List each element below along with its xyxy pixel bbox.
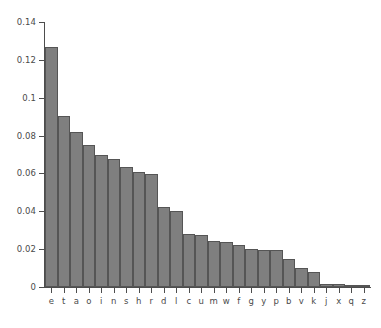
bar-n xyxy=(108,159,121,287)
x-tick-label-h: h xyxy=(136,296,141,306)
x-tick-mark xyxy=(276,288,277,293)
x-tick-mark xyxy=(364,288,365,293)
x-tick-label-x: x xyxy=(336,296,341,306)
x-tick-mark xyxy=(51,288,52,293)
bar-t xyxy=(58,116,71,287)
letter-frequency-bar-chart: 00.020.040.060.080.10.120.14 etaoinshrdl… xyxy=(0,0,381,328)
x-tick-mark xyxy=(114,288,115,293)
x-tick-mark xyxy=(164,288,165,293)
bar-h xyxy=(133,172,146,287)
y-tick-label: 0.06 xyxy=(17,168,36,178)
x-tick-mark xyxy=(351,288,352,293)
bar-i xyxy=(95,155,108,287)
x-tick-label-e: e xyxy=(49,296,54,306)
bar-q xyxy=(345,285,358,287)
x-tick-label-c: c xyxy=(186,296,191,306)
x-tick-mark xyxy=(126,288,127,293)
bar-e xyxy=(45,47,58,287)
bar-f xyxy=(233,245,246,287)
bar-k xyxy=(308,272,321,287)
y-tick-mark xyxy=(39,136,44,137)
x-tick-mark xyxy=(139,288,140,293)
x-tick-label-w: w xyxy=(223,296,230,306)
x-tick-label-a: a xyxy=(74,296,79,306)
y-tick-label: 0.04 xyxy=(17,206,36,216)
bar-b xyxy=(283,259,296,287)
x-tick-label-s: s xyxy=(124,296,128,306)
y-tick-label: 0.1 xyxy=(22,93,36,103)
x-tick-label-q: q xyxy=(349,296,354,306)
bar-j xyxy=(320,284,333,287)
x-tick-mark xyxy=(64,288,65,293)
x-tick-label-y: y xyxy=(261,296,266,306)
y-tick-mark xyxy=(39,22,44,23)
x-tick-label-b: b xyxy=(286,296,291,306)
x-tick-label-u: u xyxy=(199,296,204,306)
bar-y xyxy=(258,250,271,287)
bar-x xyxy=(333,284,346,287)
x-tick-label-v: v xyxy=(299,296,304,306)
bar-p xyxy=(270,250,283,287)
x-tick-mark xyxy=(101,288,102,293)
x-tick-mark xyxy=(201,288,202,293)
y-tick-label: 0.02 xyxy=(17,244,36,254)
x-tick-mark xyxy=(214,288,215,293)
x-tick-label-p: p xyxy=(274,296,279,306)
y-tick-mark xyxy=(39,60,44,61)
x-tick-mark xyxy=(176,288,177,293)
bar-u xyxy=(195,235,208,287)
y-tick-label: 0.12 xyxy=(17,55,36,65)
bar-r xyxy=(145,174,158,287)
y-tick-label: 0.14 xyxy=(17,17,36,27)
x-tick-label-f: f xyxy=(237,296,240,306)
y-tick-label: 0.08 xyxy=(17,131,36,141)
x-tick-mark xyxy=(76,288,77,293)
x-tick-label-z: z xyxy=(362,296,366,306)
x-tick-label-l: l xyxy=(175,296,177,306)
x-tick-mark xyxy=(289,288,290,293)
x-tick-label-j: j xyxy=(325,296,327,306)
x-tick-mark xyxy=(189,288,190,293)
bar-a xyxy=(70,132,83,287)
x-tick-mark xyxy=(251,288,252,293)
x-tick-label-i: i xyxy=(100,296,102,306)
bar-m xyxy=(208,241,221,287)
x-tick-mark xyxy=(151,288,152,293)
x-tick-label-r: r xyxy=(150,296,154,306)
x-tick-label-d: d xyxy=(161,296,166,306)
x-tick-label-k: k xyxy=(311,296,316,306)
x-tick-mark xyxy=(314,288,315,293)
plot-area xyxy=(45,22,370,287)
bar-g xyxy=(245,249,258,287)
bar-c xyxy=(183,234,196,287)
x-tick-mark xyxy=(326,288,327,293)
x-tick-mark xyxy=(226,288,227,293)
y-tick-mark xyxy=(39,287,44,288)
bar-v xyxy=(295,268,308,287)
bar-z xyxy=(358,285,371,287)
x-tick-label-o: o xyxy=(86,296,91,306)
x-tick-mark xyxy=(264,288,265,293)
y-tick-label: 0 xyxy=(30,282,36,292)
x-tick-label-t: t xyxy=(62,296,65,306)
bar-l xyxy=(170,211,183,287)
bar-s xyxy=(120,167,133,287)
x-tick-mark xyxy=(239,288,240,293)
x-tick-label-m: m xyxy=(210,296,218,306)
x-tick-label-g: g xyxy=(249,296,254,306)
x-tick-mark xyxy=(89,288,90,293)
x-tick-mark xyxy=(301,288,302,293)
y-tick-mark xyxy=(39,98,44,99)
bar-w xyxy=(220,242,233,287)
x-axis-spine xyxy=(44,287,371,288)
y-tick-mark xyxy=(39,173,44,174)
x-tick-mark xyxy=(339,288,340,293)
bar-o xyxy=(83,145,96,287)
y-tick-mark xyxy=(39,249,44,250)
x-tick-label-n: n xyxy=(111,296,116,306)
y-tick-mark xyxy=(39,211,44,212)
bar-d xyxy=(158,207,171,287)
